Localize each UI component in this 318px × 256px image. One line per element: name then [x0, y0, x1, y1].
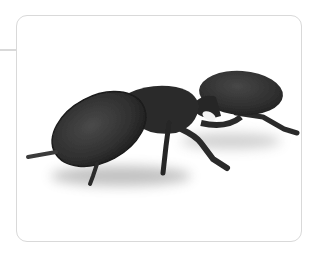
- ant-antenna: [28, 152, 56, 157]
- connector-line: [0, 49, 17, 51]
- image-frame: Black ant with a large flattened disc-sh…: [16, 15, 302, 242]
- ant-leg: [236, 113, 297, 133]
- ant-photo: [16, 15, 302, 242]
